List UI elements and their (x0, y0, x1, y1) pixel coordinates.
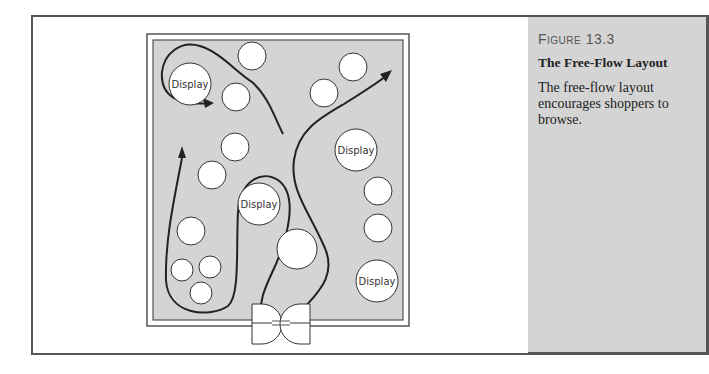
display-fixture-1: Display (169, 63, 211, 105)
figure-caption: The free-flow layout encourages shoppers… (538, 80, 698, 128)
display-fixture (171, 259, 193, 281)
display-fixture (221, 133, 249, 161)
display-fixture (364, 177, 392, 205)
svg-text:Display: Display (241, 199, 278, 210)
display-fixture (364, 214, 392, 242)
display-fixture (277, 229, 317, 269)
svg-text:Display: Display (172, 79, 209, 90)
figure-caption-panel: Figure 13.3 The Free-Flow Layout The fre… (528, 15, 709, 355)
display-fixture (198, 161, 226, 189)
display-fixture-3: Display (238, 183, 280, 225)
svg-text:Display: Display (359, 276, 396, 287)
display-fixture (190, 282, 212, 304)
figure-number-value: 13.3 (586, 31, 615, 47)
display-fixture (177, 217, 205, 245)
display-fixture-2: Display (335, 129, 377, 171)
figure-number: Figure 13.3 (538, 31, 698, 47)
display-fixture (199, 256, 221, 278)
display-fixture (238, 42, 266, 70)
display-fixture (339, 53, 367, 81)
figure-number-prefix: Figure (538, 31, 581, 47)
figure-title: The Free-Flow Layout (538, 55, 698, 71)
svg-text:Display: Display (338, 145, 375, 156)
display-fixture (222, 83, 250, 111)
display-fixture-4: Display (356, 260, 398, 302)
display-fixture (310, 79, 338, 107)
